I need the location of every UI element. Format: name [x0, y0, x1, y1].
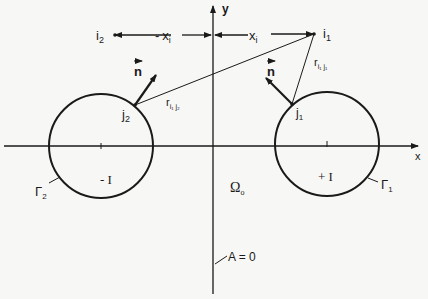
gamma1-leader — [368, 178, 378, 182]
label-omega: Ωo — [230, 180, 244, 197]
label-current-plus: + I — [318, 169, 333, 184]
x-axis-label: x — [415, 150, 421, 162]
label-r-i1-j1: ri₁ j₁ — [314, 56, 328, 71]
gamma2-leader — [49, 177, 60, 183]
label-gamma1: Γ1 — [381, 177, 393, 194]
label-neg-xi: -xi — [155, 28, 171, 45]
label-normal-j2: n — [134, 61, 142, 79]
label-r-i1-j2: ri₁ j₂ — [166, 96, 180, 111]
y-axis-label: y — [222, 2, 229, 16]
diagram-canvas: x y i2 i1 j2 j1 -xi xi ri₁ j₂ ri₁ j₁ n n… — [0, 0, 428, 299]
label-normal-j1: n — [267, 61, 275, 79]
label-boundary-condition: A = 0 — [228, 250, 256, 264]
normal-vector-j1 — [266, 78, 292, 104]
label-xi: xi — [249, 28, 258, 45]
label-gamma2: Γ2 — [35, 184, 47, 201]
normal-label-right: n — [267, 64, 275, 79]
label-i1: i1 — [323, 26, 331, 43]
boundary-leader — [215, 256, 227, 264]
r-i1-j2-line — [135, 34, 314, 105]
point-i2 — [113, 33, 117, 37]
r-i1-j1-line — [292, 34, 314, 104]
label-current-minus: - I — [100, 172, 112, 187]
label-j2: j2 — [121, 107, 130, 124]
label-i2: i2 — [96, 28, 104, 45]
label-j1: j1 — [295, 106, 304, 122]
normal-label-left: n — [134, 64, 142, 79]
